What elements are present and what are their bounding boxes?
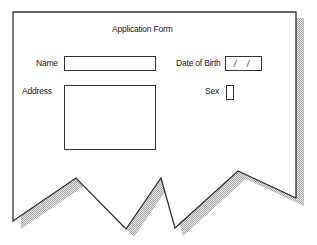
torn-paper-frame xyxy=(0,0,317,245)
sex-label: Sex xyxy=(205,86,219,96)
address-textarea[interactable] xyxy=(64,85,156,150)
date-of-birth-label: Date of Birth xyxy=(176,58,221,68)
name-input[interactable] xyxy=(64,56,156,71)
name-label: Name xyxy=(36,58,58,68)
form-title: Application Form xyxy=(112,24,173,34)
date-of-birth-input[interactable]: / / xyxy=(225,56,262,71)
sex-input[interactable] xyxy=(226,85,234,100)
address-label: Address xyxy=(22,86,52,96)
date-of-birth-value: / / xyxy=(226,59,261,69)
